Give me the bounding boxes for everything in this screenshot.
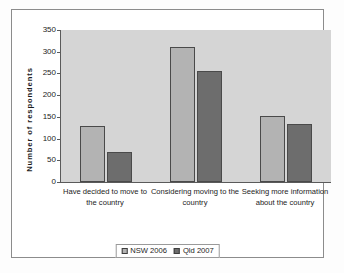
legend-swatch-icon bbox=[174, 248, 180, 254]
x-axis-category-label-line: about the country bbox=[237, 197, 333, 208]
x-axis-category-label-line: Considering moving to the bbox=[147, 186, 243, 197]
x-axis-category-labels: Have decided to move tothe countryConsid… bbox=[60, 186, 330, 218]
bar-group bbox=[241, 30, 331, 182]
y-axis-tick-mark bbox=[57, 73, 61, 74]
x-axis-category-label-line: country bbox=[147, 197, 243, 208]
x-axis-category-label: Seeking more informationabout the countr… bbox=[237, 186, 333, 208]
y-axis-tick-mark bbox=[57, 182, 61, 183]
y-axis-title-text: Number of respondents bbox=[25, 67, 34, 172]
bar-group bbox=[61, 30, 151, 182]
legend-item: NSW 2006 bbox=[121, 247, 167, 255]
y-axis-tick-label: 250 bbox=[43, 69, 56, 77]
y-axis-title: Number of respondents bbox=[21, 46, 37, 192]
y-axis-tick-label: 200 bbox=[43, 91, 56, 99]
chart-frame: Number of respondents 050100150200250300… bbox=[11, 9, 324, 258]
bar-group bbox=[151, 30, 241, 182]
y-axis-tick-label: 0 bbox=[52, 178, 56, 186]
bar bbox=[107, 152, 132, 182]
plot-area bbox=[60, 30, 331, 183]
bar bbox=[170, 47, 195, 182]
chart-figure: Number of respondents 050100150200250300… bbox=[0, 0, 344, 273]
legend-label: Qld 2007 bbox=[183, 247, 214, 255]
y-axis-tick-mark bbox=[57, 30, 61, 31]
y-axis-tick-labels: 050100150200250300350 bbox=[37, 30, 58, 182]
bar bbox=[260, 116, 285, 182]
x-axis-category-label-line: the country bbox=[57, 197, 153, 208]
x-axis-category-label: Considering moving to thecountry bbox=[147, 186, 243, 208]
legend-swatch-icon bbox=[121, 248, 127, 254]
bar bbox=[197, 71, 222, 182]
bar-series-container bbox=[61, 30, 331, 182]
y-axis-tick-label: 300 bbox=[43, 48, 56, 56]
bar bbox=[287, 124, 312, 182]
x-axis-category-label-line: Have decided to move to bbox=[57, 186, 153, 197]
y-axis-tick-mark bbox=[57, 160, 61, 161]
y-axis-tick-label: 100 bbox=[43, 135, 56, 143]
x-axis-category-label-line: Seeking more information bbox=[237, 186, 333, 197]
y-axis-tick-label: 150 bbox=[43, 113, 56, 121]
y-axis-tick-mark bbox=[57, 52, 61, 53]
x-axis-category-label: Have decided to move tothe country bbox=[57, 186, 153, 208]
y-axis-tick-label: 50 bbox=[47, 156, 56, 164]
y-axis-tick-mark bbox=[57, 95, 61, 96]
y-axis-tick-label: 350 bbox=[43, 26, 56, 34]
bar bbox=[80, 126, 105, 182]
legend-item: Qld 2007 bbox=[174, 247, 214, 255]
chart-legend: NSW 2006Qld 2007 bbox=[115, 244, 220, 258]
legend-label: NSW 2006 bbox=[130, 247, 167, 255]
y-axis-tick-mark bbox=[57, 139, 61, 140]
y-axis-tick-mark bbox=[57, 117, 61, 118]
